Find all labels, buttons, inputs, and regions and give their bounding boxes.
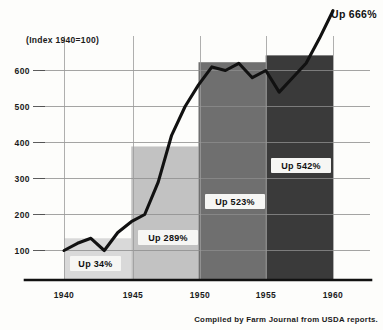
chart-container: 600 500 400 300 200 100 1940 1945 1950 1… [0,0,383,330]
chart-index-note: (Index 1940=100) [26,35,99,45]
y-axis-tick-labels: 600 500 400 300 200 100 [15,66,30,256]
chart-credit: Compiled by Farm Journal from USDA repor… [194,315,378,324]
band-label-1950-1955: Up 523% [205,194,265,209]
y-tick-label-400: 400 [15,138,30,148]
band-label-text-289: Up 289% [148,233,188,243]
band-1950-1955 [199,62,266,279]
x-tick-label-1950: 1950 [190,290,211,300]
endpoint-callout-label: Up 666% [331,8,377,20]
band-label-text-523: Up 523% [215,197,255,207]
index-line-chart: 600 500 400 300 200 100 1940 1945 1950 1… [0,0,383,330]
y-tick-stubs [33,71,45,251]
y-tick-label-100: 100 [15,246,30,256]
x-tick-label-1940: 1940 [54,290,75,300]
x-tick-label-1945: 1945 [123,290,144,300]
y-tick-label-600: 600 [15,66,30,76]
band-label-1955-1960: Up 542% [271,158,331,173]
x-tick-label-1955: 1955 [256,290,277,300]
x-axis-tick-labels: 1940 1945 1950 1955 1960 [54,290,344,300]
band-label-1940-1945: Up 34% [70,256,121,271]
band-label-1945-1950: Up 289% [138,230,198,245]
band-1945-1950 [131,146,198,279]
y-tick-label-200: 200 [15,210,30,220]
x-tick-label-1960: 1960 [323,290,344,300]
y-tick-label-300: 300 [15,174,30,184]
band-label-text-34: Up 34% [78,259,112,269]
y-tick-label-500: 500 [15,102,30,112]
band-label-text-542: Up 542% [281,161,321,171]
